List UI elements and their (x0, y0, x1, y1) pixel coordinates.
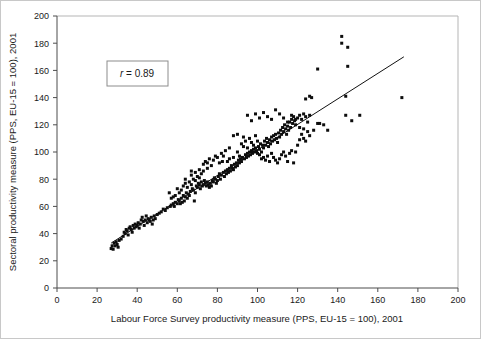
data-point (111, 244, 114, 247)
data-point (283, 123, 286, 126)
data-point (318, 122, 321, 125)
data-point (263, 140, 266, 143)
data-point (282, 117, 285, 120)
data-point (236, 133, 239, 136)
data-point (223, 175, 226, 178)
data-point (268, 160, 271, 163)
data-point (284, 127, 287, 130)
correlation-annotation: r = 0.89 (107, 61, 168, 86)
data-point (112, 248, 115, 251)
data-point (242, 145, 245, 148)
data-point (256, 140, 259, 143)
data-point (262, 156, 265, 159)
data-point (143, 224, 146, 227)
y-tick-label: 80 (39, 175, 49, 185)
data-point (228, 157, 231, 160)
data-point (257, 145, 260, 148)
x-tick-label: 200 (450, 295, 465, 305)
data-point (218, 161, 221, 164)
data-point (203, 179, 206, 182)
data-point (285, 133, 288, 136)
data-point (254, 146, 257, 149)
data-point (226, 160, 229, 163)
y-axis-ticks: 020406080100120140160180200 (34, 11, 57, 293)
data-point (210, 164, 213, 167)
data-point (265, 137, 268, 140)
data-point (280, 153, 283, 156)
data-point (170, 197, 173, 200)
data-point (278, 157, 281, 160)
data-point (340, 35, 343, 38)
data-point (294, 118, 297, 121)
y-tick-label: 20 (39, 256, 49, 266)
data-point (298, 126, 301, 129)
data-point (212, 180, 215, 183)
data-point (186, 186, 189, 189)
y-tick-label: 60 (39, 202, 49, 212)
data-point (200, 172, 203, 175)
data-point (316, 68, 319, 71)
data-point (254, 134, 257, 137)
data-point (294, 151, 297, 154)
data-point (302, 127, 305, 130)
data-point (176, 187, 179, 190)
svg-text:r = 0.89: r = 0.89 (120, 68, 155, 79)
x-tick-label: 160 (370, 295, 385, 305)
data-point (184, 182, 187, 185)
data-point (346, 65, 349, 68)
data-point (288, 152, 291, 155)
data-point (116, 243, 119, 246)
y-tick-label: 140 (34, 93, 49, 103)
data-point (232, 168, 235, 171)
data-point (216, 179, 219, 182)
data-point (300, 118, 303, 121)
data-point (129, 225, 132, 228)
data-point (268, 138, 271, 141)
data-point (248, 137, 251, 140)
data-point (291, 122, 294, 125)
data-point (190, 174, 193, 177)
y-tick-label: 200 (34, 11, 49, 21)
data-point (312, 129, 315, 132)
data-point (266, 155, 269, 158)
data-point (279, 129, 282, 132)
data-point (184, 178, 187, 181)
data-point (346, 46, 349, 49)
data-point (286, 160, 289, 163)
data-point (151, 223, 154, 226)
plot-canvas: 020406080100120140160180200 020406080100… (0, 0, 481, 339)
data-point (304, 140, 307, 143)
x-tick-label: 40 (132, 295, 142, 305)
data-point (183, 199, 186, 202)
data-point (350, 119, 353, 122)
data-point (208, 157, 211, 160)
data-point (304, 97, 307, 100)
y-axis-title: Sectoral productivity measure (PPS, EU-1… (7, 33, 18, 271)
x-tick-label: 20 (92, 295, 102, 305)
data-point (154, 217, 157, 220)
data-point (270, 152, 273, 155)
data-point (188, 180, 191, 183)
data-point (252, 144, 255, 147)
data-point (214, 155, 217, 158)
data-point (276, 141, 279, 144)
data-point (146, 221, 149, 224)
data-point (302, 112, 305, 115)
data-point (202, 170, 205, 173)
data-point (286, 121, 289, 124)
data-point (282, 151, 285, 154)
x-tick-label: 100 (250, 295, 265, 305)
data-point (202, 163, 205, 166)
y-tick-label: 0 (44, 283, 49, 293)
data-point (232, 134, 235, 137)
data-point (145, 214, 148, 217)
data-point (220, 152, 223, 155)
y-tick-label: 180 (34, 39, 49, 49)
data-point (117, 246, 120, 249)
y-tick-label: 100 (34, 147, 49, 157)
data-point (186, 197, 189, 200)
data-point (199, 187, 202, 190)
data-point (180, 189, 183, 192)
data-point (246, 114, 249, 117)
data-point (212, 159, 215, 162)
